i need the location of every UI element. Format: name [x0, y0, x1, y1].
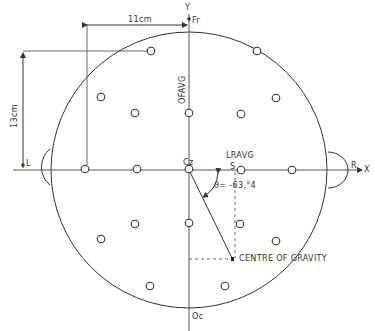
electrode	[131, 109, 139, 117]
electrode	[272, 237, 280, 245]
electrode	[221, 282, 229, 290]
electrode	[272, 94, 280, 102]
fr-label: Fr	[192, 15, 200, 25]
l-label: L	[26, 158, 31, 168]
electrode	[133, 165, 141, 173]
electrode	[253, 47, 261, 55]
electrode	[185, 219, 193, 227]
dim-horizontal-label: 11cm	[128, 14, 152, 24]
eeg-diagram: Y Fr 11cm 13cm OFAVG L Cz LRAVG S ϑ= -63…	[0, 0, 375, 331]
electrode	[237, 110, 245, 118]
x-axis-label: X	[364, 164, 370, 174]
left-ear	[41, 149, 50, 185]
l-point	[21, 163, 25, 167]
electrode	[236, 220, 244, 228]
electrode	[147, 47, 155, 55]
electrode	[97, 93, 105, 101]
y-axis-label: Y	[185, 2, 190, 12]
electrode	[81, 165, 89, 173]
electrode	[131, 220, 139, 228]
oc-label: Oc	[192, 311, 203, 321]
ofavg-label: OFAVG	[177, 76, 187, 104]
fr-point	[187, 17, 191, 21]
dim-vertical-label: 13cm	[9, 104, 19, 128]
centre-of-gravity-point	[231, 257, 234, 261]
r-label: R	[351, 160, 357, 170]
electrode	[185, 109, 193, 117]
electrode	[288, 166, 296, 174]
electrode	[97, 235, 105, 243]
cz-label: Cz	[183, 157, 194, 167]
lravg-label: LRAVG	[226, 150, 254, 160]
centre-of-gravity-label: CENTRE OF GRAVITY	[239, 253, 327, 263]
angle-label: ϑ= -63,°4	[214, 180, 256, 190]
s-label: S	[230, 161, 235, 171]
electrode	[237, 166, 245, 174]
electrode	[146, 282, 154, 290]
